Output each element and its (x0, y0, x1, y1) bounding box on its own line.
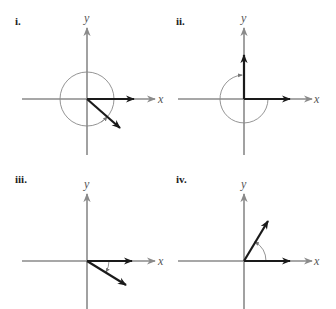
y-axis-label: y (83, 11, 90, 25)
panel-label: iv. (176, 173, 187, 185)
panel-ii: ii. y x (176, 11, 320, 155)
panel-label: i. (15, 15, 21, 27)
terminal-side-vector (87, 99, 120, 128)
x-axis-label: x (157, 92, 164, 106)
terminal-side-vector (87, 261, 126, 285)
panel-iv: iv. y x (176, 173, 320, 309)
x-axis-label: x (157, 254, 164, 268)
x-axis-label: x (313, 254, 320, 268)
panel-iii: iii. y x (15, 173, 164, 309)
x-axis-label: x (313, 92, 320, 106)
rotation-arc (106, 261, 109, 272)
panel-label: ii. (176, 15, 185, 27)
panel-i: i. y x (15, 11, 164, 155)
y-axis-label: y (240, 177, 247, 191)
y-axis-label: y (240, 11, 247, 25)
panel-label: iii. (15, 173, 27, 185)
rotation-arc (255, 242, 266, 261)
y-axis-label: y (83, 177, 90, 191)
rotation-arrow-icon (101, 117, 107, 122)
terminal-side-vector (244, 221, 268, 261)
angle-diagram: i. y x ii. y x iii. y x iv. y x (0, 0, 336, 309)
